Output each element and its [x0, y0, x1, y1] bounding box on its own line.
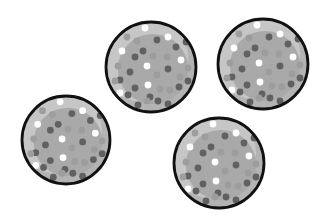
speckle-dot	[200, 181, 207, 188]
speckle-dot	[47, 127, 54, 134]
speckle-dot	[135, 102, 142, 109]
speckle-dot	[57, 98, 64, 105]
speckle-dot	[253, 161, 260, 168]
speckle-dot	[213, 178, 220, 185]
speckle-dot	[68, 110, 75, 117]
speckle-dot	[244, 180, 251, 187]
speckle-dot	[256, 95, 263, 102]
speckle-dot	[69, 170, 76, 177]
speckle-dot	[90, 156, 97, 163]
speckle-dot	[150, 53, 157, 60]
speckle-dot	[65, 126, 72, 133]
speckle-dot	[78, 127, 85, 134]
speckle-dot	[192, 130, 199, 137]
speckle-dot	[244, 82, 251, 89]
speckle-dot	[247, 99, 254, 106]
speckle-dot	[167, 87, 174, 94]
speckle-dot	[256, 60, 263, 67]
speckle-dot	[202, 134, 209, 141]
speckle-dot	[193, 188, 200, 195]
speckle-dot	[262, 50, 269, 57]
speckle-dot	[180, 174, 187, 181]
speckle-dot	[297, 75, 304, 82]
speckle-dot	[266, 34, 273, 41]
speckle-dot	[236, 31, 243, 38]
speckle-dot	[173, 44, 180, 51]
speckle-dot	[154, 72, 161, 79]
speckle-dot	[165, 34, 172, 41]
speckle-dot	[297, 62, 304, 69]
speckle-dot	[246, 153, 253, 160]
speckle-dot	[233, 162, 240, 169]
speckle-dot	[218, 149, 225, 156]
speckle-dot	[212, 159, 219, 166]
speckle-dot	[185, 65, 192, 72]
speckle-dot	[27, 150, 34, 157]
speckle-dot	[42, 141, 49, 148]
speckle-dot	[187, 144, 194, 151]
speckle-dot	[145, 82, 152, 89]
speckle-dot	[144, 98, 151, 105]
speckle-dot	[225, 182, 232, 189]
speckle-dot	[253, 174, 260, 181]
speckle-dot	[285, 41, 292, 48]
speckle-dot	[183, 159, 190, 166]
speckle-dot	[277, 31, 284, 38]
speckle-dot	[232, 150, 239, 157]
speckle-dot	[124, 34, 131, 41]
speckle-dot	[277, 63, 284, 70]
speckle-dot	[252, 45, 259, 52]
speckle-dot	[245, 170, 252, 177]
speckle-dot	[222, 133, 229, 140]
speckle-dot	[241, 140, 248, 147]
speckle-dot	[195, 165, 202, 172]
speckle-dot	[266, 69, 273, 76]
speckle-dot	[154, 37, 161, 44]
speckle-dot	[157, 86, 164, 93]
speckle-dot	[246, 35, 253, 42]
speckle-dot	[212, 194, 219, 201]
speckle-dot	[290, 54, 297, 61]
speckle-dot	[223, 194, 230, 201]
speckle-dot	[210, 121, 217, 128]
speckle-dot	[164, 54, 171, 61]
speckle-dot	[99, 138, 106, 145]
speckle-dot	[227, 60, 234, 67]
speckle-dot	[140, 48, 147, 55]
speckle-dot	[49, 111, 56, 118]
speckle-dot	[71, 158, 78, 165]
speckled-balls-illustration	[0, 0, 336, 223]
speckle-dot	[60, 154, 67, 161]
speckle-dot	[99, 150, 106, 157]
speckle-dot	[254, 22, 261, 29]
speckle-dot	[132, 85, 139, 92]
speckle-dot	[39, 107, 46, 114]
speckle-dot	[288, 81, 295, 88]
speckle-dot	[257, 79, 264, 86]
speckle-dot	[134, 38, 141, 45]
speckle-dot	[115, 63, 122, 70]
speckle-dot	[237, 89, 244, 96]
speckle-dot	[222, 168, 229, 175]
speckle-dot	[81, 159, 88, 166]
speckle-dot	[142, 25, 149, 32]
speckle-dot	[200, 150, 207, 157]
speckle-dot	[235, 183, 242, 190]
speckle-dot	[30, 136, 37, 143]
speckle-dot	[233, 130, 240, 137]
speckle-dot	[276, 51, 283, 58]
speckle-dot	[34, 121, 41, 128]
speckle-dot	[244, 51, 251, 58]
speckle-dot	[119, 48, 126, 55]
speckle-dot	[127, 69, 134, 76]
speckle-dot	[50, 174, 57, 181]
speckle-dot	[91, 146, 98, 153]
speckle-dot	[132, 54, 139, 61]
speckle-dot	[59, 136, 66, 143]
speckle-dot	[231, 45, 238, 52]
speckle-dot	[269, 83, 276, 90]
speckle-dot	[79, 107, 86, 114]
speckle-dot	[224, 75, 231, 82]
speckle-dot	[68, 144, 75, 151]
speckle-dot	[208, 144, 215, 151]
